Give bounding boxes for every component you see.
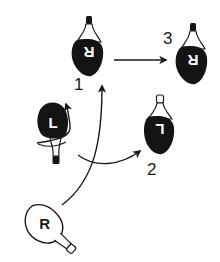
foot-step-3-right: R [176,23,208,84]
step-label-3: 3 [163,29,172,48]
foot-letter: L [48,114,57,131]
foot-letter: R [83,44,94,61]
foot-step-2-left: L [144,95,174,154]
foot-letter: L [155,121,164,138]
footwork-diagram: R R L L R 1 2 3 [0,0,220,262]
foot-step-1-right: R [72,16,104,76]
foot-letter: R [39,215,50,232]
step-label-1: 1 [74,75,83,94]
foot-left-pivot: L [37,103,68,164]
arrow-start-to-step-1 [62,86,102,205]
step-label-2: 2 [147,160,156,179]
foot-letter: R [187,52,198,69]
arrow-left-to-step-2 [78,151,140,164]
foot-start-right: R [17,198,86,262]
